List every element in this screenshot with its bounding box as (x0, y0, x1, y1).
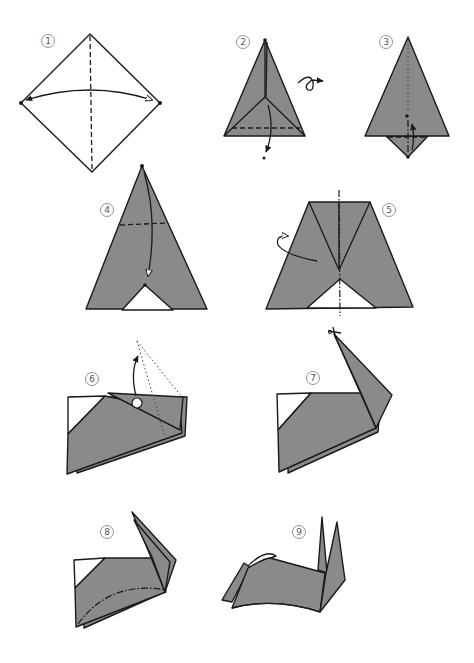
ear-left (318, 517, 327, 573)
step-2: 2 (224, 36, 323, 160)
tall-triangle-paper (365, 37, 449, 136)
step-number-6: 6 (86, 373, 99, 386)
svg-text:6: 6 (89, 374, 95, 384)
step-7: 7 (277, 327, 392, 473)
pivot-point (132, 398, 142, 408)
svg-text:7: 7 (310, 373, 316, 383)
step-number-1: 1 (42, 35, 55, 48)
step-number-3: 3 (380, 36, 393, 49)
svg-text:9: 9 (296, 527, 302, 537)
step-number-8: 8 (101, 526, 114, 539)
step-1: 1 (19, 34, 162, 172)
step-5: 5 (266, 190, 413, 316)
svg-text:3: 3 (383, 37, 389, 47)
result-outline (137, 341, 182, 397)
scissors-icon (328, 327, 341, 339)
step-number-2: 2 (237, 36, 250, 49)
step-3: 3 (365, 36, 449, 159)
step-8: 8 (74, 512, 176, 628)
turn-over-icon (298, 77, 323, 90)
step-9: 9 (222, 517, 345, 612)
step-number-4: 4 (101, 204, 114, 217)
svg-text:5: 5 (386, 205, 392, 215)
step-4: 4 (86, 164, 207, 310)
step-number-9: 9 (293, 526, 306, 539)
svg-text:4: 4 (104, 205, 110, 215)
pull-up-arrow-icon (133, 356, 138, 396)
step-number-7: 7 (307, 372, 320, 385)
origami-diagram: 1 2 3 (0, 0, 474, 663)
step-number-5: 5 (383, 204, 396, 217)
svg-text:2: 2 (240, 37, 246, 47)
step-6: 6 (67, 341, 187, 474)
svg-text:8: 8 (104, 527, 110, 537)
svg-text:1: 1 (45, 36, 51, 46)
bottom-flap (386, 136, 428, 157)
